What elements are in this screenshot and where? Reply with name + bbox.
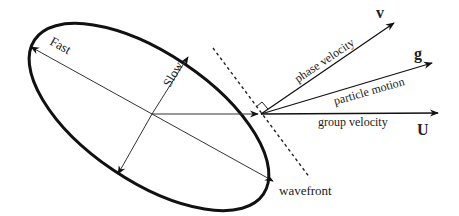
U-label: U <box>417 121 429 138</box>
group-velocity-arrow <box>261 113 438 114</box>
wave-velocity-diagram: Fast Slow phase velocity particle motion… <box>0 0 459 216</box>
phase-velocity-label: phase velocity <box>292 35 357 85</box>
wavefront-ellipse <box>0 0 299 216</box>
particle-motion-label: particle motion <box>332 74 406 108</box>
particle-motion-arrow <box>261 63 432 114</box>
wavefront-label: wavefront <box>279 183 332 198</box>
fast-label: Fast <box>48 34 75 58</box>
slow-axis-arrow-down <box>118 114 152 174</box>
v-label: v <box>376 4 384 21</box>
phase-velocity-arrow <box>261 23 394 114</box>
wavefront-ray-arrow <box>152 114 273 181</box>
group-velocity-label: group velocity <box>318 115 388 129</box>
fast-axis-arrow <box>31 47 152 114</box>
g-label: g <box>414 45 422 63</box>
